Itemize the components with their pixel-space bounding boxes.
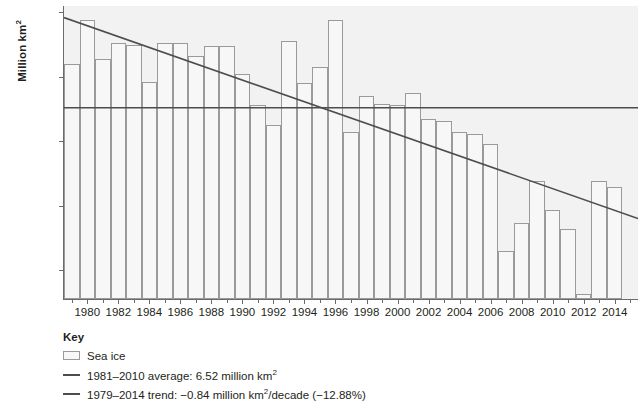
x-axis-tick-mark [584, 299, 585, 304]
bar [64, 64, 80, 299]
y-axis-tick-mark [59, 206, 64, 207]
bar [436, 121, 452, 299]
sea-ice-extent-chart: Million km2 8.007.006.005.004.00 1980198… [0, 0, 643, 402]
legend-label-superscript: 2 [272, 368, 276, 377]
x-axis-tick-mark [491, 299, 492, 304]
legend-item: 1979–2014 trend: −0.84 million km2/decad… [63, 384, 633, 402]
x-axis-minor-tick-mark [72, 299, 73, 303]
plot-area: 8.007.006.005.004.00 1980198219841986198… [63, 6, 638, 300]
bar [343, 132, 359, 299]
bar [250, 105, 266, 299]
bar [452, 132, 468, 299]
y-axis-title: Million km2 [14, 0, 28, 106]
y-axis-title-text: Million km [16, 25, 28, 82]
legend-swatch-line-icon [63, 374, 80, 376]
bar [591, 181, 607, 299]
bar [142, 82, 158, 299]
bar [126, 45, 142, 299]
legend-item: 1981–2010 average: 6.52 million km2 [63, 365, 633, 384]
bar [405, 93, 421, 299]
bar [374, 104, 390, 299]
x-axis-minor-tick-mark [506, 299, 507, 303]
legend-title: Key [63, 331, 633, 343]
x-axis-tick-label: 2014 [592, 306, 638, 318]
legend-item: Sea ice [63, 346, 633, 365]
x-axis-minor-tick-mark [568, 299, 569, 303]
x-axis-minor-tick-mark [630, 299, 631, 303]
x-axis-tick-mark [149, 299, 150, 304]
x-axis-minor-tick-mark [196, 299, 197, 303]
y-axis-tick-mark [59, 12, 64, 13]
bar [266, 125, 282, 299]
legend-item-label: 1979–2014 trend: −0.84 million km2/decad… [87, 387, 366, 401]
legend-label-superscript: 2 [264, 387, 268, 396]
legend-item-label: 1981–2010 average: 6.52 million km2 [87, 368, 277, 382]
x-axis-minor-tick-mark [537, 299, 538, 303]
x-axis-minor-tick-mark [382, 299, 383, 303]
x-axis-tick-mark [398, 299, 399, 304]
x-axis-tick-mark [429, 299, 430, 304]
bar [173, 43, 189, 299]
bar [421, 119, 437, 299]
x-axis-minor-tick-mark [413, 299, 414, 303]
bar [545, 210, 561, 299]
bar [80, 20, 96, 299]
bar [560, 229, 576, 299]
y-axis-title-superscript: 2 [14, 20, 23, 25]
x-axis-minor-tick-mark [103, 299, 104, 303]
x-axis-tick-mark [118, 299, 119, 304]
x-axis-tick-mark [522, 299, 523, 304]
x-axis-tick-mark [87, 299, 88, 304]
x-axis-minor-tick-mark [134, 299, 135, 303]
bar [281, 41, 297, 299]
bar [390, 105, 406, 299]
x-axis-tick-mark [211, 299, 212, 304]
x-axis-tick-mark [304, 299, 305, 304]
x-axis-tick-mark [553, 299, 554, 304]
bar [467, 134, 483, 299]
bar [204, 46, 220, 299]
bar [359, 96, 375, 299]
x-axis-tick-mark [180, 299, 181, 304]
x-axis-minor-tick-mark [351, 299, 352, 303]
legend-swatch-line-icon [63, 393, 80, 395]
legend: Key Sea ice1981–2010 average: 6.52 milli… [63, 331, 633, 402]
bar [328, 20, 344, 299]
x-axis-tick-mark [367, 299, 368, 304]
bar [235, 74, 251, 299]
x-axis-tick-mark [273, 299, 274, 304]
legend-items: Sea ice1981–2010 average: 6.52 million k… [63, 346, 633, 402]
x-axis-minor-tick-mark [165, 299, 166, 303]
legend-item-label: Sea ice [87, 350, 125, 362]
x-axis-minor-tick-mark [258, 299, 259, 303]
y-axis-tick-mark [59, 270, 64, 271]
bar [111, 43, 127, 299]
x-axis-minor-tick-mark [320, 299, 321, 303]
bar [312, 67, 328, 299]
bar [607, 187, 623, 299]
x-axis-minor-tick-mark [289, 299, 290, 303]
bar [297, 83, 313, 299]
x-axis-tick-mark [460, 299, 461, 304]
bar [95, 59, 111, 299]
bar [529, 181, 545, 299]
x-axis-tick-mark [242, 299, 243, 304]
bar [498, 251, 514, 299]
plot-inner [64, 6, 638, 299]
x-axis-minor-tick-mark [475, 299, 476, 303]
bar [219, 46, 235, 299]
bar [157, 43, 173, 299]
y-axis-tick-mark [59, 141, 64, 142]
x-axis-minor-tick-mark [227, 299, 228, 303]
bar [514, 223, 530, 299]
x-axis-tick-mark [615, 299, 616, 304]
y-axis-tick-mark [59, 77, 64, 78]
bar [188, 56, 204, 299]
legend-swatch-box-icon [63, 351, 80, 360]
x-axis-minor-tick-mark [444, 299, 445, 303]
x-axis-minor-tick-mark [599, 299, 600, 303]
bar [483, 144, 499, 299]
x-axis-tick-mark [335, 299, 336, 304]
